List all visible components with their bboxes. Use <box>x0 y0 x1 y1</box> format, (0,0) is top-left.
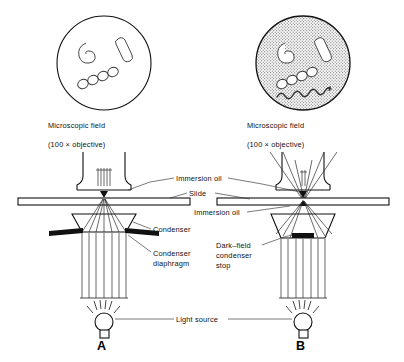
immersion-oil-bottom-text: Immersion oil <box>194 208 240 217</box>
microscopy-comparison-figure: Microscopic field (100 × objective) Micr… <box>0 0 404 362</box>
condenser-diaphragm-line1: Condenser <box>153 249 191 258</box>
condenser-diaphragm-line2: diaphragm <box>153 259 189 268</box>
objective-b-rays <box>300 170 307 186</box>
slide-text: Slide <box>189 189 206 198</box>
light-column-b <box>279 239 327 298</box>
field-caption-b-line2: (100 × objective) <box>247 140 304 149</box>
immersion-oil-a <box>100 191 108 198</box>
leader-slide-left <box>170 193 187 198</box>
panel-a-microscopic-field: Microscopic field (100 × objective) <box>48 16 151 149</box>
label-immersion-oil-bottom: Immersion oil <box>194 206 290 217</box>
dark-field-stop-line2: condenser <box>216 251 252 260</box>
objective-b-left-wall <box>276 152 282 190</box>
panel-b-microscopic-field: Microscopic field (100 × objective) <box>247 16 350 149</box>
field-caption-a-line1: Microscopic field <box>48 121 105 130</box>
leader-immersion-oil-bottom <box>247 206 290 212</box>
field-caption-a-line2: (100 × objective) <box>48 140 105 149</box>
light-source-text: Light source <box>176 315 218 324</box>
objective-a-left-wall <box>77 152 83 190</box>
panel-letter-a: A <box>97 339 106 353</box>
field-caption-b-line1: Microscopic field <box>247 121 304 130</box>
label-light-source: Light source <box>115 315 292 324</box>
lamp-b-rays <box>286 300 319 313</box>
light-column-a <box>80 233 128 298</box>
label-dark-field-stop: Dark–field condenser stop <box>216 235 292 270</box>
panel-letter-b: B <box>296 339 305 353</box>
objective-a-rays <box>96 168 112 186</box>
leader-condenser-diaphragm <box>128 235 151 252</box>
label-condenser-diaphragm: Condenser diaphragm <box>128 235 191 268</box>
condenser-text: Condenser <box>153 225 191 234</box>
dark-field-stop-line1: Dark–field <box>216 241 251 250</box>
dark-field-stop-line3: stop <box>216 261 231 270</box>
field-circle-a <box>57 16 151 110</box>
lamp-a-rays <box>87 300 120 313</box>
label-immersion-oil-top: Immersion oil <box>128 174 300 192</box>
diagram-canvas: Microscopic field (100 × objective) Micr… <box>0 0 404 362</box>
dark-field-condenser-stop <box>292 233 314 238</box>
leader-dark-field-stop <box>262 235 292 245</box>
immersion-oil-top-text: Immersion oil <box>176 174 222 183</box>
objective-a-right-wall <box>125 152 131 190</box>
leader-immersion-oil-left <box>128 178 174 190</box>
objective-b-right-wall <box>324 152 330 190</box>
leader-condenser <box>133 222 151 229</box>
